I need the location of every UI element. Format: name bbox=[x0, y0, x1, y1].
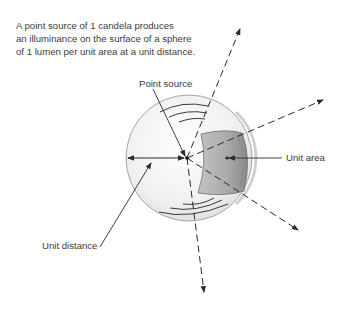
point-source-label: Point source bbox=[139, 78, 192, 89]
caption-line: an illuminance on the surface of a spher… bbox=[16, 32, 195, 45]
diagram-caption: A point source of 1 candela produces an … bbox=[16, 19, 195, 58]
unit-distance-leader bbox=[100, 163, 151, 247]
unit-area-patch bbox=[198, 131, 248, 195]
unit-area-label: Unit area bbox=[286, 152, 325, 163]
point-source-dot bbox=[185, 156, 189, 160]
unit-distance-label: Unit distance bbox=[42, 240, 97, 251]
caption-line: A point source of 1 candela produces bbox=[16, 19, 195, 32]
caption-line: of 1 lumen per unit area at a unit dista… bbox=[16, 45, 195, 58]
